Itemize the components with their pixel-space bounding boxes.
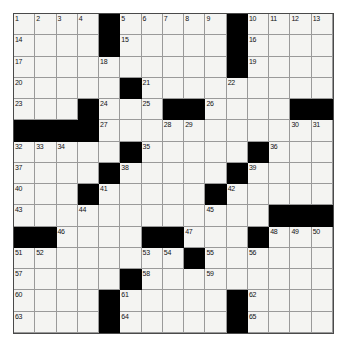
crossword-cell[interactable] <box>78 142 99 163</box>
crossword-cell[interactable] <box>57 35 78 56</box>
crossword-cell[interactable]: 14 <box>14 35 35 56</box>
crossword-cell[interactable] <box>78 269 99 290</box>
crossword-cell[interactable] <box>269 269 290 290</box>
crossword-cell[interactable] <box>78 248 99 269</box>
crossword-cell[interactable] <box>248 78 269 99</box>
crossword-cell[interactable] <box>227 205 248 226</box>
crossword-cell[interactable] <box>163 205 184 226</box>
crossword-cell[interactable] <box>269 120 290 141</box>
crossword-cell[interactable] <box>57 205 78 226</box>
crossword-cell[interactable] <box>269 35 290 56</box>
crossword-cell[interactable] <box>290 57 311 78</box>
crossword-cell[interactable] <box>184 269 205 290</box>
crossword-cell[interactable] <box>269 57 290 78</box>
crossword-cell[interactable] <box>290 78 311 99</box>
crossword-cell[interactable] <box>248 184 269 205</box>
crossword-cell[interactable] <box>269 248 290 269</box>
crossword-cell[interactable] <box>290 142 311 163</box>
crossword-cell[interactable] <box>248 205 269 226</box>
crossword-cell[interactable] <box>290 290 311 311</box>
crossword-cell[interactable]: 56 <box>248 248 269 269</box>
crossword-cell[interactable]: 1 <box>14 14 35 35</box>
crossword-cell[interactable] <box>205 312 226 333</box>
crossword-cell[interactable]: 11 <box>269 14 290 35</box>
crossword-cell[interactable]: 25 <box>142 99 163 120</box>
crossword-cell[interactable]: 41 <box>99 184 120 205</box>
crossword-cell[interactable]: 42 <box>227 184 248 205</box>
crossword-cell[interactable]: 3 <box>57 14 78 35</box>
crossword-cell[interactable]: 10 <box>248 14 269 35</box>
crossword-cell[interactable] <box>205 120 226 141</box>
crossword-cell[interactable]: 33 <box>35 142 56 163</box>
crossword-cell[interactable] <box>120 99 141 120</box>
crossword-cell[interactable] <box>57 57 78 78</box>
crossword-cell[interactable] <box>78 290 99 311</box>
crossword-cell[interactable] <box>57 248 78 269</box>
crossword-cell[interactable] <box>163 142 184 163</box>
crossword-cell[interactable] <box>248 269 269 290</box>
crossword-cell[interactable]: 20 <box>14 78 35 99</box>
crossword-cell[interactable]: 4 <box>78 14 99 35</box>
crossword-cell[interactable] <box>163 78 184 99</box>
crossword-cell[interactable]: 8 <box>184 14 205 35</box>
crossword-cell[interactable]: 48 <box>269 227 290 248</box>
crossword-cell[interactable]: 30 <box>290 120 311 141</box>
crossword-cell[interactable] <box>312 163 333 184</box>
crossword-cell[interactable] <box>269 184 290 205</box>
crossword-cell[interactable]: 62 <box>248 290 269 311</box>
crossword-cell[interactable] <box>227 269 248 290</box>
crossword-cell[interactable] <box>35 57 56 78</box>
crossword-cell[interactable] <box>35 312 56 333</box>
crossword-cell[interactable]: 16 <box>248 35 269 56</box>
crossword-cell[interactable]: 51 <box>14 248 35 269</box>
crossword-cell[interactable]: 28 <box>163 120 184 141</box>
crossword-cell[interactable] <box>57 290 78 311</box>
crossword-cell[interactable]: 38 <box>120 163 141 184</box>
crossword-cell[interactable] <box>120 120 141 141</box>
crossword-cell[interactable]: 15 <box>120 35 141 56</box>
crossword-cell[interactable]: 58 <box>142 269 163 290</box>
crossword-cell[interactable] <box>312 57 333 78</box>
crossword-cell[interactable]: 50 <box>312 227 333 248</box>
crossword-cell[interactable]: 12 <box>290 14 311 35</box>
crossword-cell[interactable]: 19 <box>248 57 269 78</box>
crossword-cell[interactable] <box>35 205 56 226</box>
crossword-cell[interactable] <box>269 78 290 99</box>
crossword-cell[interactable] <box>227 99 248 120</box>
crossword-cell[interactable]: 34 <box>57 142 78 163</box>
crossword-cell[interactable] <box>184 312 205 333</box>
crossword-cell[interactable] <box>99 227 120 248</box>
crossword-cell[interactable] <box>184 142 205 163</box>
crossword-cell[interactable]: 37 <box>14 163 35 184</box>
crossword-cell[interactable]: 18 <box>99 57 120 78</box>
crossword-cell[interactable] <box>35 35 56 56</box>
crossword-cell[interactable] <box>205 290 226 311</box>
crossword-cell[interactable]: 27 <box>99 120 120 141</box>
crossword-cell[interactable]: 31 <box>312 120 333 141</box>
crossword-cell[interactable]: 7 <box>163 14 184 35</box>
crossword-cell[interactable] <box>99 248 120 269</box>
crossword-cell[interactable] <box>290 269 311 290</box>
crossword-cell[interactable] <box>78 163 99 184</box>
crossword-cell[interactable]: 2 <box>35 14 56 35</box>
crossword-cell[interactable] <box>120 184 141 205</box>
crossword-cell[interactable] <box>163 312 184 333</box>
crossword-cell[interactable]: 44 <box>78 205 99 226</box>
crossword-cell[interactable] <box>312 78 333 99</box>
crossword-cell[interactable]: 53 <box>142 248 163 269</box>
crossword-cell[interactable] <box>163 269 184 290</box>
crossword-cell[interactable]: 29 <box>184 120 205 141</box>
crossword-cell[interactable] <box>142 312 163 333</box>
crossword-cell[interactable] <box>205 57 226 78</box>
crossword-cell[interactable] <box>205 227 226 248</box>
crossword-cell[interactable] <box>269 312 290 333</box>
crossword-cell[interactable] <box>142 184 163 205</box>
crossword-cell[interactable] <box>290 163 311 184</box>
crossword-cell[interactable] <box>35 78 56 99</box>
crossword-cell[interactable] <box>78 35 99 56</box>
crossword-cell[interactable]: 21 <box>142 78 163 99</box>
crossword-cell[interactable] <box>78 57 99 78</box>
crossword-cell[interactable] <box>227 248 248 269</box>
crossword-cell[interactable] <box>290 312 311 333</box>
crossword-cell[interactable] <box>312 184 333 205</box>
